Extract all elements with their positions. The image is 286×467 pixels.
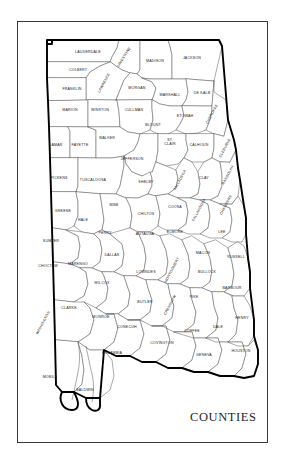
map-page: COUNTIES LAUDERDALELIMESTONEMADISONJACKS… (0, 0, 286, 467)
map-title: COUNTIES (190, 410, 257, 425)
alabama-counties-map (0, 0, 286, 467)
